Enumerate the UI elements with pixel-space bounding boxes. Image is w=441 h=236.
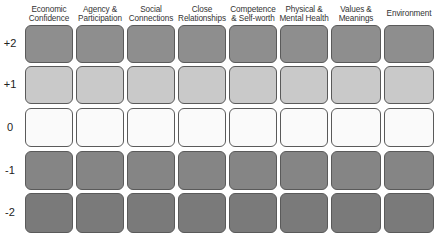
row-label: 0 — [0, 121, 20, 133]
scale-cell — [229, 25, 277, 63]
scale-cell — [229, 151, 277, 190]
scale-cell — [384, 108, 434, 147]
scale-cell — [280, 193, 328, 233]
scale-cell — [331, 108, 381, 147]
scale-cell — [229, 108, 277, 147]
scale-cell — [127, 25, 175, 63]
column-header: Values & Meanings — [330, 3, 382, 25]
scale-cell — [127, 66, 175, 104]
scale-cell — [331, 193, 381, 233]
scale-cell — [127, 193, 175, 233]
row-label: +1 — [0, 78, 20, 90]
scale-cell — [76, 151, 124, 190]
scale-cell — [178, 25, 226, 63]
scale-cell — [384, 151, 434, 190]
scale-cell — [76, 193, 124, 233]
scale-cell — [25, 193, 73, 233]
scale-cell — [331, 25, 381, 63]
scale-cell — [25, 66, 73, 104]
column-header: Economic Confidence — [23, 3, 75, 25]
column-header: Agency & Participation — [74, 3, 126, 25]
scale-cell — [178, 151, 226, 190]
scale-cell — [384, 25, 434, 63]
scale-cell — [280, 108, 328, 147]
scale-cell — [127, 151, 175, 190]
column-header: Physical & Mental Health — [278, 3, 330, 25]
scale-cell — [178, 66, 226, 104]
scale-cell — [127, 108, 175, 147]
scale-cell — [280, 151, 328, 190]
column-header: Competence & Self-worth — [227, 3, 279, 25]
scale-cell — [76, 108, 124, 147]
scale-cell — [331, 151, 381, 190]
scale-cell — [331, 66, 381, 104]
row-label: -1 — [0, 164, 20, 176]
column-header: Social Connections — [125, 3, 177, 25]
scale-cell — [178, 108, 226, 147]
scale-cell — [229, 66, 277, 104]
scale-cell — [384, 193, 434, 233]
row-label: +2 — [0, 37, 20, 49]
scale-cell — [178, 193, 226, 233]
scale-cell — [25, 108, 73, 147]
scale-cell — [76, 66, 124, 104]
column-header: Close Relationships — [176, 3, 228, 25]
scale-cell — [384, 66, 434, 104]
column-header: Environment — [383, 3, 435, 25]
row-label: -2 — [0, 206, 20, 218]
scale-cell — [229, 193, 277, 233]
scale-cell — [25, 151, 73, 190]
scale-cell — [25, 25, 73, 63]
scale-cell — [280, 66, 328, 104]
scale-cell — [76, 25, 124, 63]
scale-cell — [280, 25, 328, 63]
